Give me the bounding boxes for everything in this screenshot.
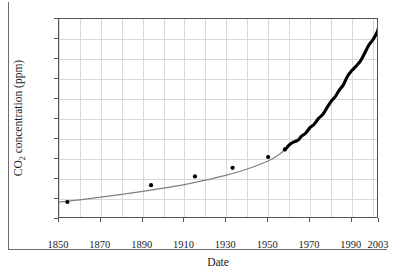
x-axis-tick-mark xyxy=(309,218,310,222)
figure-frame-left-rule xyxy=(8,2,9,250)
x-axis-label: Date xyxy=(58,256,378,268)
data-point-marker xyxy=(193,174,197,178)
y-axis-tick-mark xyxy=(54,58,58,59)
x-axis-tick-label: 1870 xyxy=(89,240,110,251)
data-point-marker xyxy=(266,155,270,159)
y-axis-tick-mark xyxy=(54,138,58,139)
y-axis-label-base: CO xyxy=(12,160,24,176)
data-point-marker xyxy=(65,200,69,204)
y-axis-tick-mark xyxy=(54,78,58,79)
y-axis-tick-mark xyxy=(54,118,58,119)
y-axis-label-subscript: 2 xyxy=(18,156,27,160)
y-axis-tick-mark xyxy=(54,158,58,159)
data-point-marker xyxy=(283,147,287,151)
y-axis-tick-mark xyxy=(54,198,58,199)
data-point-marker xyxy=(149,183,153,187)
x-axis-tick-label: 1990 xyxy=(340,240,361,251)
x-axis-tick-mark xyxy=(58,218,59,222)
plot-wrapper: 280290300310320330340350360370380 185018… xyxy=(58,18,378,218)
x-axis-tick-mark xyxy=(267,218,268,222)
x-axis-tick-mark xyxy=(225,218,226,222)
x-axis-tick-label: 1890 xyxy=(131,240,152,251)
series-dense-mauna-loa-record xyxy=(285,26,378,150)
x-axis-tick-label: 1910 xyxy=(173,240,194,251)
data-curve-svg xyxy=(59,19,378,218)
x-axis-tick-label: 1850 xyxy=(48,240,69,251)
y-axis-label-rest: concentration (ppm) xyxy=(12,60,24,156)
y-axis-tick-mark xyxy=(54,38,58,39)
x-axis-tick-label: 1930 xyxy=(215,240,236,251)
x-axis-tick-label: 1950 xyxy=(257,240,278,251)
y-axis-tick-mark xyxy=(54,98,58,99)
x-axis-tick-mark xyxy=(142,218,143,222)
x-axis-tick-mark xyxy=(351,218,352,222)
y-axis-tick-mark xyxy=(54,178,58,179)
x-axis-tick-mark xyxy=(183,218,184,222)
x-axis-tick-label: 2003 xyxy=(368,240,389,251)
y-axis-tick-mark xyxy=(54,18,58,19)
plot-area xyxy=(58,18,378,218)
data-point-marker xyxy=(230,166,234,170)
y-axis-label: CO2 concentration (ppm) xyxy=(12,18,26,218)
x-axis-tick-mark xyxy=(100,218,101,222)
series-line-ice-core-and-mauna-loa-fit xyxy=(59,150,285,202)
x-axis-tick-mark xyxy=(378,218,379,222)
x-axis-tick-label: 1970 xyxy=(298,240,319,251)
